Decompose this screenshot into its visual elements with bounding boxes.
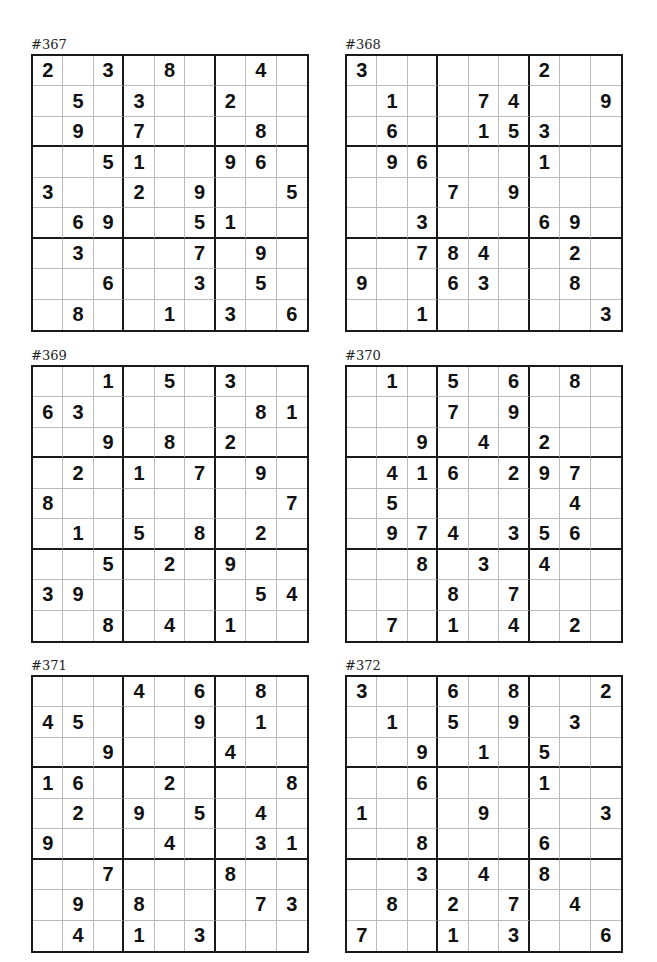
sudoku-cell: 1: [530, 147, 560, 177]
sudoku-cell: [185, 117, 215, 147]
sudoku-cell: 3: [591, 799, 621, 829]
sudoku-cell: [499, 860, 529, 890]
sudoku-cell: 2: [155, 550, 185, 580]
sudoku-cell: [155, 86, 185, 116]
sudoku-cell: 8: [155, 56, 185, 86]
sudoku-cell: [94, 397, 124, 427]
sudoku-cell: [216, 580, 246, 610]
sudoku-cell: [499, 489, 529, 519]
sudoku-cell: 9: [185, 178, 215, 208]
sudoku-cell: [591, 178, 621, 208]
sudoku-cell: 6: [33, 397, 63, 427]
sudoku-cell: [216, 921, 246, 951]
sudoku-cell: 3: [408, 208, 438, 238]
sudoku-cell: 8: [94, 611, 124, 641]
sudoku-cell: 4: [63, 921, 93, 951]
sudoku-cell: [469, 147, 499, 177]
sudoku-grid: 23845329785196329569513796358136: [31, 54, 309, 332]
sudoku-cell: 8: [377, 890, 407, 920]
sudoku-cell: [155, 677, 185, 707]
sudoku-cell: 5: [63, 86, 93, 116]
sudoku-cell: [246, 611, 276, 641]
sudoku-cell: [469, 178, 499, 208]
sudoku-cell: [591, 890, 621, 920]
sudoku-cell: [469, 611, 499, 641]
sudoku-cell: 6: [63, 208, 93, 238]
sudoku-cell: 7: [94, 860, 124, 890]
sudoku-cell: [155, 178, 185, 208]
sudoku-cell: [185, 56, 215, 86]
sudoku-cell: [246, 208, 276, 238]
sudoku-cell: 4: [438, 519, 468, 549]
puzzle-title: #370: [345, 347, 621, 365]
sudoku-cell: [63, 677, 93, 707]
sudoku-cell: 1: [124, 458, 154, 488]
sudoku-cell: 9: [499, 707, 529, 737]
sudoku-cell: 1: [377, 367, 407, 397]
sudoku-cell: [438, 428, 468, 458]
sudoku-cell: [33, 147, 63, 177]
sudoku-cell: 9: [591, 86, 621, 116]
sudoku-cell: [246, 300, 276, 330]
sudoku-cell: 8: [438, 580, 468, 610]
sudoku-cell: 4: [246, 799, 276, 829]
sudoku-cell: [530, 677, 560, 707]
sudoku-cell: [33, 890, 63, 920]
sudoku-cell: [347, 707, 377, 737]
sudoku-cell: [347, 178, 377, 208]
sudoku-cell: [277, 611, 307, 641]
sudoku-cell: [216, 239, 246, 269]
sudoku-cell: 2: [530, 428, 560, 458]
sudoku-cell: [216, 677, 246, 707]
sudoku-cell: 9: [216, 147, 246, 177]
sudoku-cell: [277, 117, 307, 147]
sudoku-cell: [347, 768, 377, 798]
sudoku-cell: [246, 921, 276, 951]
sudoku-cell: [377, 738, 407, 768]
sudoku-cell: [469, 458, 499, 488]
sudoku-cell: 9: [530, 458, 560, 488]
sudoku-cell: 3: [185, 269, 215, 299]
sudoku-cell: 9: [499, 178, 529, 208]
sudoku-cell: [408, 56, 438, 86]
sudoku-cell: [63, 178, 93, 208]
sudoku-cell: 2: [33, 56, 63, 86]
sudoku-cell: 1: [408, 300, 438, 330]
sudoku-cell: [185, 890, 215, 920]
sudoku-cell: [530, 921, 560, 951]
sudoku-cell: [591, 489, 621, 519]
sudoku-cell: 3: [33, 178, 63, 208]
sudoku-cell: 8: [124, 890, 154, 920]
sudoku-cell: 3: [216, 300, 246, 330]
sudoku-cell: [185, 580, 215, 610]
sudoku-cell: [124, 738, 154, 768]
sudoku-cell: 2: [591, 677, 621, 707]
sudoku-cell: 5: [155, 367, 185, 397]
sudoku-cell: [347, 428, 377, 458]
sudoku-cell: [33, 367, 63, 397]
sudoku-cell: [469, 489, 499, 519]
sudoku-cell: [155, 580, 185, 610]
sudoku-cell: 7: [277, 489, 307, 519]
sudoku-cell: [155, 707, 185, 737]
sudoku-cell: [124, 550, 154, 580]
sudoku-cell: [155, 921, 185, 951]
sudoku-cell: 6: [438, 677, 468, 707]
sudoku-cell: [216, 397, 246, 427]
sudoku-cell: [33, 860, 63, 890]
sudoku-cell: [185, 367, 215, 397]
sudoku-cell: 8: [155, 428, 185, 458]
sudoku-cell: 7: [185, 239, 215, 269]
sudoku-cell: [560, 677, 590, 707]
sudoku-cell: [246, 768, 276, 798]
sudoku-cell: 1: [377, 707, 407, 737]
sudoku-cell: [591, 550, 621, 580]
sudoku-cell: [246, 367, 276, 397]
sudoku-cell: [560, 550, 590, 580]
sudoku-cell: [560, 300, 590, 330]
sudoku-cell: 6: [185, 677, 215, 707]
sudoku-cell: [469, 768, 499, 798]
sudoku-cell: [216, 269, 246, 299]
sudoku-cell: [246, 489, 276, 519]
sudoku-cell: [155, 519, 185, 549]
